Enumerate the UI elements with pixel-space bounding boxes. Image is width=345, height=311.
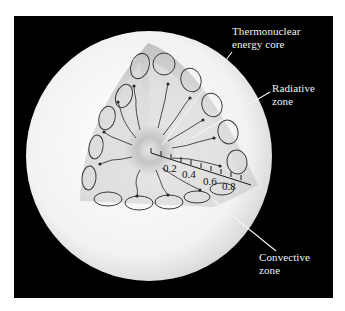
label-radiative-line2: zone <box>272 95 315 108</box>
label-radiative: Radiative zone <box>272 82 315 108</box>
label-core-line2: energy core <box>232 38 301 51</box>
scale-tick-0.8: 0.8 <box>222 180 236 192</box>
label-core-line1: Thermonuclear <box>232 25 301 38</box>
label-convective-line2: zone <box>259 264 310 277</box>
scale-tick-0.6: 0.6 <box>203 175 217 187</box>
scale-tick-0.4: 0.4 <box>182 168 196 180</box>
label-convective-line1: Convective <box>259 251 310 264</box>
scale-tick-0.2: 0.2 <box>163 162 177 174</box>
label-radiative-line1: Radiative <box>272 82 315 95</box>
label-core: Thermonuclear energy core <box>232 25 301 51</box>
label-convective: Convective zone <box>259 251 310 277</box>
